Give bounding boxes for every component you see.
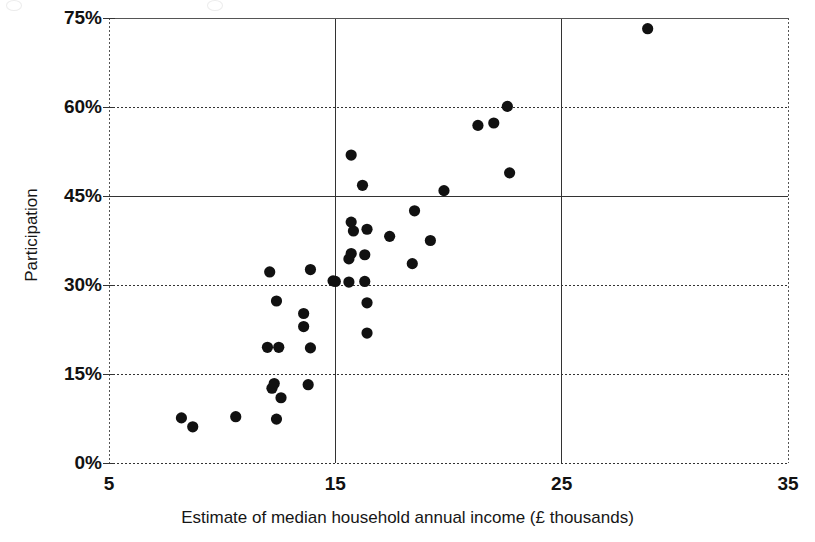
x-axis-title: Estimate of median household annual inco…: [0, 508, 815, 528]
x-tick-label: 35: [758, 474, 815, 493]
x-tick-label: 15: [305, 474, 365, 493]
x-axis-ticks: 5152535: [0, 0, 815, 542]
x-tick-label: 5: [79, 474, 139, 493]
x-tick-label: 25: [532, 474, 592, 493]
scatter-chart-figure: Participation 0%15%30%45%60%75% 5152535 …: [0, 0, 815, 542]
